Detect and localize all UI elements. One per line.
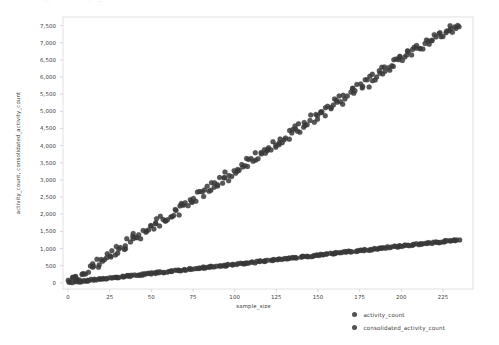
scatter-chart: activity_count vs sample_size 05001,0001… <box>0 0 499 345</box>
data-point <box>123 243 128 248</box>
data-point <box>340 102 345 107</box>
data-point <box>151 227 156 232</box>
x-tick-label: 50 <box>148 294 156 300</box>
y-tick-label: 500 <box>45 263 56 269</box>
data-point <box>253 150 258 155</box>
y-tick-label: 6,000 <box>40 74 56 80</box>
x-tick-label: 225 <box>438 294 449 300</box>
y-tick-label: 7,500 <box>40 23 56 29</box>
x-tick-label: 75 <box>189 294 196 300</box>
legend-label: activity_count <box>363 312 404 318</box>
data-point <box>345 93 350 98</box>
x-tick-label: 100 <box>229 294 240 300</box>
data-point <box>245 164 250 169</box>
x-tick-label: 0 <box>66 294 70 300</box>
data-point <box>268 147 273 152</box>
y-axis-title-text: activity_count, consolidated_activity_co… <box>15 92 21 214</box>
data-point <box>256 156 261 161</box>
data-point <box>367 85 372 90</box>
data-point <box>205 184 210 189</box>
circle-marker-icon <box>352 312 357 317</box>
data-point <box>157 224 162 229</box>
y-tick-label: 3,000 <box>40 177 56 183</box>
y-tick-label: 3,500 <box>40 160 56 166</box>
x-tick-label: 150 <box>313 294 324 300</box>
chart-legend: activity_count consolidated_activity_cou… <box>352 308 497 334</box>
y-tick-label: 1,000 <box>40 246 56 252</box>
circle-marker-icon <box>352 325 357 330</box>
data-point <box>177 213 182 218</box>
y-tick-label: 2,500 <box>40 194 56 200</box>
data-point <box>226 178 231 183</box>
legend-item-activity-count[interactable]: activity_count <box>352 308 497 321</box>
data-point <box>215 183 220 188</box>
y-tick-label: 5,000 <box>40 108 56 114</box>
data-point <box>457 237 462 242</box>
x-tick-label: 25 <box>106 294 113 300</box>
y-axis-tick-marks <box>60 26 63 283</box>
x-axis-tick-labels: 0255075100125150175200225 <box>66 294 448 300</box>
y-tick-label: 2,000 <box>40 211 56 217</box>
data-point <box>305 122 310 127</box>
y-tick-label: 7,000 <box>40 40 56 46</box>
data-point <box>420 47 425 52</box>
y-axis-title: activity_count, consolidated_activity_co… <box>12 58 24 248</box>
data-point <box>201 194 206 199</box>
data-point <box>229 174 234 179</box>
y-tick-label: 0 <box>52 280 56 286</box>
y-tick-label: 1,500 <box>40 228 56 234</box>
data-point <box>222 175 227 180</box>
data-point <box>222 170 227 175</box>
x-tick-label: 125 <box>271 294 282 300</box>
data-point <box>387 68 392 73</box>
data-point <box>370 72 375 77</box>
data-point <box>138 236 143 241</box>
plot-canvas: 05001,0001,5002,0002,5003,0003,5004,0004… <box>0 0 499 345</box>
data-point <box>360 84 365 89</box>
data-point <box>173 207 178 212</box>
data-point <box>450 30 455 35</box>
y-tick-label: 6,500 <box>40 57 56 63</box>
y-tick-label: 4,500 <box>40 125 56 131</box>
data-point <box>109 248 114 253</box>
data-point <box>352 88 357 93</box>
y-tick-label: 4,000 <box>40 143 56 149</box>
data-point <box>108 255 113 260</box>
x-tick-label: 175 <box>354 294 365 300</box>
data-point <box>308 113 313 118</box>
data-point <box>186 203 191 208</box>
data-point <box>193 199 198 204</box>
data-point <box>430 38 435 43</box>
data-point <box>217 175 222 180</box>
data-point <box>294 255 299 260</box>
data-point <box>171 213 176 218</box>
data-point <box>287 137 292 142</box>
data-point <box>409 52 414 57</box>
legend-label: consolidated_activity_count <box>363 325 445 331</box>
y-axis-tick-labels: 05001,0001,5002,0002,5003,0003,5004,0004… <box>40 23 56 286</box>
data-point <box>323 113 328 118</box>
data-point <box>391 64 396 69</box>
data-point <box>297 130 302 135</box>
data-point <box>457 24 462 29</box>
data-point <box>220 181 225 186</box>
x-tick-label: 200 <box>396 294 407 300</box>
data-point <box>91 264 96 269</box>
x-axis-title-text: sample_size <box>236 303 270 309</box>
data-point <box>296 121 301 126</box>
data-point <box>86 270 91 275</box>
x-axis-tick-marks <box>68 289 443 292</box>
legend-item-consolidated-activity-count[interactable]: consolidated_activity_count <box>352 321 497 334</box>
data-point <box>289 130 294 135</box>
y-tick-label: 5,500 <box>40 91 56 97</box>
